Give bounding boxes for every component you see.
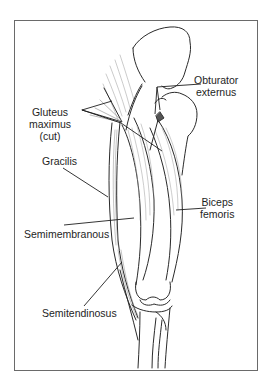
label-line: Gracilis xyxy=(42,155,77,167)
leader-gluteus-maximus xyxy=(82,101,112,110)
knee-condyles xyxy=(135,282,170,300)
label-obturator-externus: Obturator externus xyxy=(194,74,238,98)
label-semimembranous: Semimembranous xyxy=(24,228,109,240)
label-line: femoris xyxy=(200,208,234,220)
fibula xyxy=(158,320,162,368)
leader-gracilis xyxy=(63,168,108,197)
label-gracilis: Gracilis xyxy=(42,155,77,167)
label-line: externus xyxy=(194,86,238,98)
label-line: maximus xyxy=(29,118,71,130)
pelvis-outline xyxy=(133,27,191,89)
label-line: Obturator xyxy=(194,74,238,86)
label-line: Semitendinosus xyxy=(42,307,117,319)
label-semitendinosus: Semitendinosus xyxy=(42,307,117,319)
leader-semitendinosus xyxy=(84,262,122,306)
thigh-muscle-illustration xyxy=(0,0,273,388)
leader-semimembranous xyxy=(64,218,134,225)
biceps-femoris-muscle xyxy=(150,128,171,280)
semimembranous-muscle xyxy=(122,125,141,285)
femur-head xyxy=(162,92,197,175)
label-line: Semimembranous xyxy=(24,228,109,240)
label-biceps-femoris: Biceps femoris xyxy=(200,196,234,220)
label-line: Gluteus xyxy=(29,106,71,118)
label-line: Biceps xyxy=(200,196,234,208)
label-line: (cut) xyxy=(29,130,71,142)
label-gluteus-maximus: Gluteus maximus (cut) xyxy=(29,106,71,142)
